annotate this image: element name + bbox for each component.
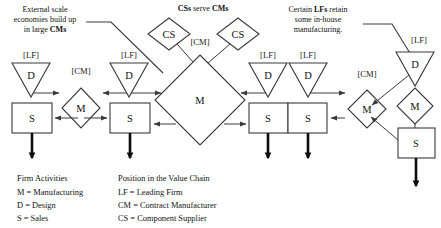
glyph-s-1: S — [29, 113, 35, 124]
glyph-s-2: S — [127, 113, 133, 124]
legend-col2-row-2: CS = Component Supplier — [118, 214, 207, 223]
glyph-m-farright: M — [410, 101, 420, 112]
tag-lf-5: [LF] — [411, 35, 427, 45]
glyph-m-1: M — [76, 103, 86, 114]
note-lf-line-1: Certain LFs retain — [288, 5, 347, 14]
glyph-s-4: S — [305, 113, 311, 124]
legend: Firm Activities M = Manufacturing D = De… — [17, 174, 217, 223]
note-lf-line-3: manufacturing. — [294, 25, 343, 34]
note-cs-serve-cms: CSs serve CMs — [178, 4, 229, 13]
note-scale-line-2: economies build up — [14, 15, 77, 24]
legend-col1-heading: Firm Activities — [17, 174, 67, 183]
glyph-s-5: S — [413, 138, 419, 149]
tag-lf-4: [LF] — [300, 50, 316, 60]
conn-s5-to-mright — [371, 117, 398, 140]
note-lf-line-2: some in-house — [295, 15, 342, 24]
legend-col2-row-0: LF = Leading Firm — [118, 188, 183, 197]
value-chain-diagram: D S M D S M CS CS D D S S M D M S [LF] [… — [0, 0, 441, 228]
note-scale-economies: External scale economies build up in lar… — [14, 5, 77, 34]
glyph-cs-2: CS — [232, 29, 245, 40]
conn-cs2-to-mlarge — [208, 44, 230, 63]
tag-lf-1: [LF] — [23, 50, 39, 60]
glyph-m-right: M — [362, 104, 372, 115]
glyph-d-5: D — [411, 59, 419, 70]
glyph-d-2: D — [125, 70, 133, 81]
legend-col2-heading: Position in the Value Chain — [118, 174, 210, 183]
legend-col1-row-2: S = Sales — [17, 214, 48, 223]
glyph-m-large: M — [195, 95, 205, 106]
glyph-d-4: D — [304, 70, 312, 81]
tag-lf-2: [LF] — [121, 50, 137, 60]
glyph-d-3: D — [264, 70, 272, 81]
tag-cm-large: [CM] — [190, 37, 209, 47]
note-scale-line-3: in large CMs — [24, 25, 67, 34]
legend-col1-row-0: M = Manufacturing — [17, 188, 84, 197]
glyph-d-1: D — [27, 70, 35, 81]
glyph-s-3: S — [265, 113, 271, 124]
diagram-canvas: D S M D S M CS CS D D S S M D M S [LF] [… — [0, 0, 441, 228]
legend-col1-row-1: D = Design — [17, 201, 56, 210]
tag-cm-right: [CM] — [357, 69, 376, 79]
tag-cm-1: [CM] — [71, 66, 90, 76]
note-cs-line-1: CSs serve CMs — [178, 4, 229, 13]
note-scale-line-1: External scale — [22, 5, 68, 14]
note-lf-inhouse: Certain LFs retain some in-house manufac… — [288, 5, 347, 34]
tag-lf-3: [LF] — [260, 50, 276, 60]
glyph-cs-1: CS — [163, 29, 176, 40]
legend-col2-row-1: CM = Contract Manufacturer — [118, 201, 217, 210]
